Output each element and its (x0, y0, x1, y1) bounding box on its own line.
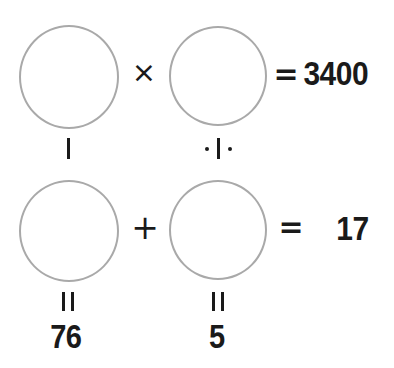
addition-operator: + (125, 211, 165, 244)
result-row2: 17 (336, 211, 368, 245)
equals-sign-row1: = (272, 59, 300, 89)
column-connector-right-bar (217, 138, 220, 159)
circle-slot-bottom-left[interactable] (19, 180, 119, 282)
equals-sign-row2: = (277, 212, 305, 242)
equals-mark-right-stroke-2 (221, 292, 224, 311)
circle-slot-bottom-right[interactable] (169, 180, 267, 280)
puzzle-canvas: × = 3400 + = 17 76 5 (0, 0, 394, 368)
column-connector-left (67, 138, 70, 159)
result-row1: 3400 (303, 56, 368, 90)
equals-mark-left-stroke-2 (71, 292, 74, 311)
equals-mark-right-stroke-1 (212, 292, 215, 311)
equals-mark-left-stroke-1 (62, 292, 65, 311)
answer-left-column: 76 (50, 320, 81, 353)
column-connector-right-dot-left (205, 147, 209, 151)
answer-right-column: 5 (209, 320, 225, 353)
multiplication-operator: × (124, 58, 164, 87)
circle-slot-top-right[interactable] (169, 26, 267, 126)
circle-slot-top-left[interactable] (19, 25, 119, 129)
column-connector-right-dot-right (228, 147, 232, 151)
